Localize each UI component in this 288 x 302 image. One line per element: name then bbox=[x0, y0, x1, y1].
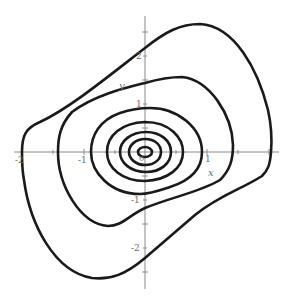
x-tick-label-m1: -1 bbox=[78, 156, 87, 165]
y-tick-label-p2: 2 bbox=[136, 52, 142, 61]
y-tick-label-m2: -2 bbox=[131, 244, 140, 253]
origin-label: 0 bbox=[139, 155, 144, 163]
phase-portrait-plot bbox=[0, 0, 288, 302]
x-tick-label-p1: 1 bbox=[205, 155, 211, 164]
x-tick-label-m2: -2 bbox=[15, 156, 24, 165]
x-axis-label: x bbox=[208, 168, 214, 178]
y-tick-label-p1: 1 bbox=[136, 100, 142, 109]
y-axis-label: y bbox=[119, 81, 125, 91]
y-tick-label-m1: -1 bbox=[131, 196, 140, 205]
orbit-1 bbox=[22, 24, 272, 278]
